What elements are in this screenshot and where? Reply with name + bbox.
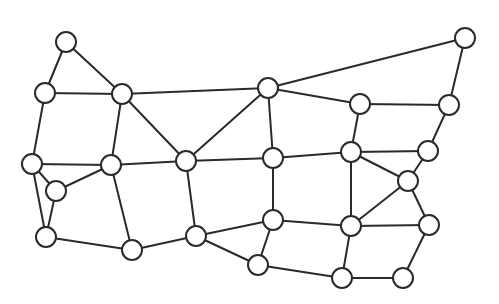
node-J [176, 151, 196, 171]
node-G [36, 227, 56, 247]
edge-A-C [66, 42, 122, 94]
node-I [258, 78, 278, 98]
edge-J-L [186, 161, 196, 236]
edge-D-F [32, 164, 111, 165]
graph-edges [32, 38, 465, 278]
node-D [22, 154, 42, 174]
edge-I-O [268, 88, 360, 104]
node-P [439, 95, 459, 115]
edge-F-J [111, 161, 186, 165]
node-B [35, 83, 55, 103]
node-F [101, 155, 121, 175]
edge-I-J [186, 88, 268, 161]
node-L [186, 226, 206, 246]
node-A [56, 32, 76, 52]
edge-K-Q [273, 152, 351, 158]
node-W [332, 268, 352, 288]
edge-P-O [360, 104, 449, 105]
edge-M-L [196, 220, 273, 236]
graph-diagram [0, 0, 499, 304]
node-U [419, 215, 439, 235]
edge-D-G [32, 164, 46, 237]
edge-G-H [46, 237, 132, 250]
node-Z [455, 28, 475, 48]
edge-N-W [258, 265, 342, 278]
node-H [122, 240, 142, 260]
node-O [350, 94, 370, 114]
node-E [46, 181, 66, 201]
node-S [398, 171, 418, 191]
edge-F-H [111, 165, 132, 250]
edge-B-C [45, 93, 122, 94]
node-T [341, 216, 361, 236]
edge-J-K [186, 158, 273, 161]
edge-T-U [351, 225, 429, 226]
node-N [248, 255, 268, 275]
edge-I-Z [268, 38, 465, 88]
node-K [263, 148, 283, 168]
node-X [393, 268, 413, 288]
edge-Q-R [351, 151, 428, 152]
node-R [418, 141, 438, 161]
edge-M-T [273, 220, 351, 226]
node-C [112, 84, 132, 104]
node-M [263, 210, 283, 230]
edge-C-J [122, 94, 186, 161]
edge-C-I [122, 88, 268, 94]
node-Q [341, 142, 361, 162]
